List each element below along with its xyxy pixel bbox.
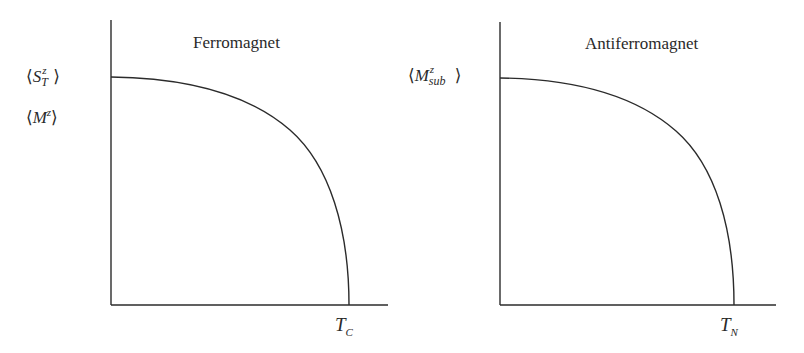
- angle-close: ⟩: [53, 67, 60, 86]
- symbol-m: M: [33, 108, 47, 127]
- angle-open: ⟨: [26, 67, 33, 86]
- left-plot-title: Ferromagnet: [193, 33, 280, 53]
- symbol-t: T: [335, 314, 346, 335]
- right-plot-title: Antiferromagnet: [585, 34, 698, 54]
- left-magnetization-curve: [111, 77, 349, 305]
- subscript-t: T: [41, 75, 48, 90]
- symbol-m: M: [415, 66, 429, 85]
- symbol-t: T: [720, 314, 731, 335]
- sup-sub-stack: zT: [41, 68, 53, 88]
- sup-sub-stack: zsub: [429, 67, 455, 87]
- angle-close: ⟩: [455, 66, 462, 85]
- right-sublattice-curve: [500, 78, 734, 305]
- right-xtick-tn: TN: [720, 314, 738, 336]
- subscript-sub: sub: [429, 74, 446, 89]
- left-ylabel-magnetization: ⟨Mz⟩: [26, 107, 58, 128]
- angle-close: ⟩: [51, 108, 58, 127]
- left-ylabel-spin: ⟨SzT⟩: [26, 66, 60, 88]
- angle-open: ⟨: [408, 66, 415, 85]
- superscript-z: z: [47, 106, 51, 118]
- subscript-n: N: [731, 326, 738, 338]
- symbol-s: S: [33, 67, 42, 86]
- right-ylabel-sublattice: ⟨Mzsub⟩: [408, 65, 461, 87]
- left-xtick-tc: TC: [335, 314, 353, 336]
- subscript-c: C: [346, 326, 353, 338]
- angle-open: ⟨: [26, 108, 33, 127]
